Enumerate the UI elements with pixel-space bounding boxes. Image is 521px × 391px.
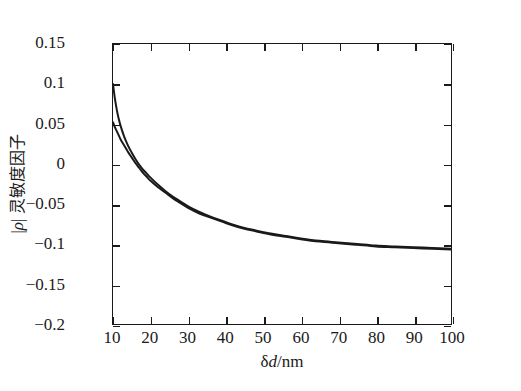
x-tick-top-40 (226, 44, 227, 51)
y-tick-left-neg0_1 (113, 245, 120, 246)
y-axis-rho-symbol: ρ (8, 222, 27, 230)
x-tick-top-70 (340, 44, 341, 51)
y-tick-right-neg0_1 (444, 245, 451, 246)
y-tick-left-0_15 (113, 44, 120, 45)
series-group (113, 84, 451, 250)
x-axis-unit: /nm (277, 352, 303, 371)
data-line-curve-lower (113, 122, 451, 249)
x-tick-bottom-40 (226, 317, 227, 324)
x-tick-bottom-20 (151, 317, 152, 324)
x-axis-title: δd/nm (112, 352, 452, 372)
x-axis-delta-symbol: δ (261, 352, 269, 371)
y-axis-bar-right: | (8, 214, 27, 222)
y-tick-right-0_15 (444, 44, 451, 45)
x-tick-bottom-90 (415, 317, 416, 324)
y-tick-left-0_05 (113, 125, 120, 126)
x-tick-bottom-10 (113, 317, 114, 324)
x-tick-bottom-50 (264, 317, 265, 324)
x-axis-title-text: δd/nm (261, 352, 304, 371)
y-axis-title: |ρ| 灵敏度因子 (9, 134, 26, 233)
x-tick-bottom-70 (340, 317, 341, 324)
x-tick-top-30 (189, 44, 190, 51)
x-tick-top-60 (302, 44, 303, 51)
x-tick-top-90 (415, 44, 416, 51)
y-tick-left-0_1 (113, 84, 120, 85)
y-axis-title-text: |ρ| 灵敏度因子 (8, 134, 27, 233)
x-tick-bottom-100 (453, 317, 454, 324)
figure-chart: 102030405060708090100 −0.2−0.15−0.1−0.05… (0, 0, 521, 391)
y-tick-right-neg0_15 (444, 286, 451, 287)
y-tick-right-0 (444, 165, 451, 166)
data-line-curve-upper (113, 84, 451, 249)
x-tick-label-100: 100 (422, 329, 482, 346)
curve-svg (113, 44, 451, 324)
x-tick-bottom-60 (302, 317, 303, 324)
x-axis-variable: d (269, 352, 278, 371)
x-tick-top-20 (151, 44, 152, 51)
x-tick-top-100 (453, 44, 454, 51)
plot-area (112, 43, 452, 325)
y-tick-right-0_1 (444, 84, 451, 85)
y-axis-title-wrapper: |ρ| 灵敏度因子 (2, 43, 32, 325)
y-tick-left-neg0_05 (113, 205, 120, 206)
x-tick-bottom-30 (189, 317, 190, 324)
x-tick-bottom-80 (377, 317, 378, 324)
y-axis-bar-left: | (8, 230, 27, 233)
y-tick-right-neg0_05 (444, 205, 451, 206)
y-tick-right-0_05 (444, 125, 451, 126)
x-tick-top-50 (264, 44, 265, 51)
y-axis-cjk-text: 灵敏度因子 (8, 134, 27, 214)
y-tick-left-0 (113, 165, 120, 166)
y-tick-left-neg0_15 (113, 286, 120, 287)
x-tick-top-80 (377, 44, 378, 51)
